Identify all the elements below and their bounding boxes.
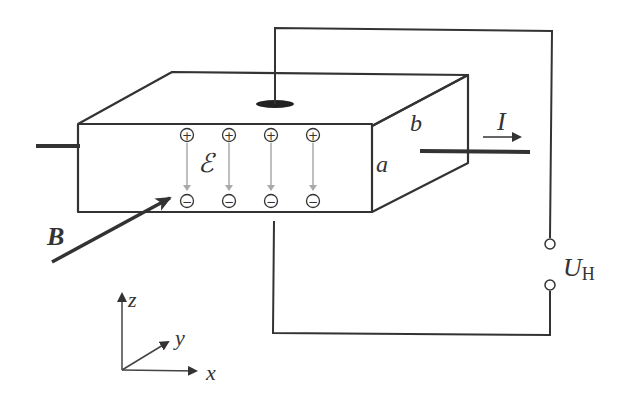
axis-x-label: x	[205, 360, 216, 385]
negative-charge: −	[266, 195, 276, 209]
terminal-top	[545, 239, 555, 249]
current-label: I	[496, 107, 507, 136]
current-lead-right	[420, 151, 530, 152]
depth-label: b	[410, 110, 422, 136]
negative-charge: −	[182, 195, 192, 209]
positive-charge: +	[308, 129, 318, 143]
positive-charge: +	[224, 129, 234, 143]
charge-column: + −	[223, 129, 236, 209]
charge-column: + −	[307, 129, 320, 209]
charge-column: + −	[265, 129, 278, 209]
magnetic-field-label: B	[46, 222, 64, 251]
axis-z-label: z	[127, 287, 137, 312]
terminal-bottom	[545, 280, 555, 290]
height-label: a	[376, 151, 388, 177]
hall-effect-diagram: UH I b a + − + − + −	[0, 0, 629, 409]
negative-charge: −	[308, 195, 318, 209]
electric-field-label: ℰ	[198, 149, 216, 178]
bottom-wire	[273, 221, 550, 335]
charge-column: + −	[181, 129, 194, 209]
negative-charge: −	[224, 195, 234, 209]
hall-voltage-label: UH	[563, 253, 595, 284]
axis-y-label: y	[173, 325, 185, 350]
positive-charge: +	[182, 129, 192, 143]
positive-charge: +	[266, 129, 276, 143]
slab-right-face	[372, 75, 468, 212]
magnetic-field-arrow	[52, 198, 170, 262]
